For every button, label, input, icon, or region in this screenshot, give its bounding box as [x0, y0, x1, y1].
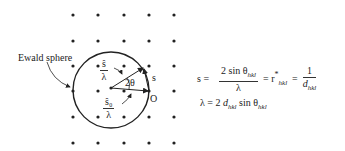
lambda-label-2: λ — [103, 109, 114, 121]
eq1-r-sub: hkl — [279, 79, 288, 87]
eq1-fraction: 2 sin θhkl λ — [219, 65, 258, 94]
eq2-sin: sin θ — [237, 97, 258, 108]
eq1-denominator: λ — [219, 82, 258, 94]
lambda-label: λ — [100, 71, 108, 83]
s0-hat-pointer-arrow — [122, 94, 131, 104]
ewald-sphere-label: Ewald sphere — [18, 52, 72, 63]
origin-label: O — [150, 93, 157, 104]
eq1-lhs: s = — [197, 73, 209, 84]
s-hat-pointer-arrow — [114, 68, 122, 74]
eq1-frac2-den-sub: hkl — [308, 84, 317, 92]
ewald-pointer-arrow — [47, 62, 70, 87]
eq1-equals: = — [292, 73, 298, 84]
reciprocal-lattice — [71, 13, 175, 144]
s-hat-over-lambda: ŝ λ — [100, 58, 108, 83]
equation-2: λ = 2 dhkl sin θhkl — [200, 97, 267, 111]
eq1-r-star: = r — [263, 73, 274, 84]
eq2-prefix: λ = 2 — [200, 97, 223, 108]
s0-hat-label: ŝ₀ — [103, 96, 114, 109]
two-theta-label: 2θ — [125, 77, 135, 88]
eq1-num-sub: hkl — [248, 71, 257, 79]
s-hat-label: ŝ — [100, 58, 108, 71]
s-label: s — [152, 72, 156, 83]
eq2-d-sub: hkl — [228, 103, 237, 111]
eq2-sin-sub: hkl — [258, 103, 267, 111]
eq1-fraction-2: 1 dhkl — [303, 65, 317, 94]
equation-1: s = 2 sin θhkl λ = r*hkl = 1 dhkl — [197, 65, 316, 94]
s0-hat-over-lambda: ŝ₀ λ — [103, 96, 114, 121]
eq1-numerator: 2 sin θ — [221, 65, 247, 76]
eq1-frac2-num: 1 — [303, 65, 317, 78]
